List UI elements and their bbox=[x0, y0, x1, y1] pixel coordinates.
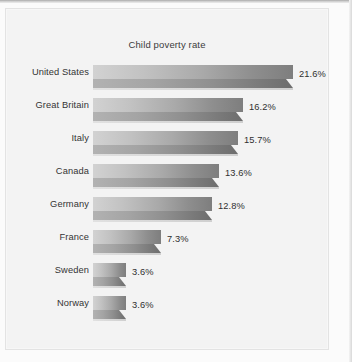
bar-body bbox=[93, 263, 126, 289]
bar-shadow bbox=[93, 286, 126, 288]
bar bbox=[93, 230, 161, 256]
bar-row: France7.3% bbox=[6, 228, 328, 261]
bar-top-face bbox=[93, 263, 126, 277]
bar-shadow bbox=[93, 121, 243, 123]
bar-body bbox=[93, 164, 219, 190]
bar-top-face bbox=[93, 296, 126, 310]
bar-shadow bbox=[93, 253, 161, 255]
bar-top-face bbox=[93, 230, 161, 244]
bar-value-label: 15.7% bbox=[244, 135, 271, 145]
bar-category-label: Norway bbox=[6, 298, 89, 308]
bar-category-label: Canada bbox=[6, 166, 89, 176]
bar-top-face bbox=[93, 131, 238, 145]
bar-top-face bbox=[93, 65, 293, 79]
bar-row: Sweden3.6% bbox=[6, 261, 328, 294]
bar-category-label: United States bbox=[6, 67, 89, 77]
bar-value-label: 13.6% bbox=[225, 168, 252, 178]
bar-shadow bbox=[93, 319, 126, 321]
bar-value-label: 21.6% bbox=[299, 69, 326, 79]
bar-shadow bbox=[93, 88, 293, 90]
bar-body bbox=[93, 230, 161, 256]
bar-row: Canada13.6% bbox=[6, 162, 328, 195]
bar-top-face bbox=[93, 164, 219, 178]
bar bbox=[93, 263, 126, 289]
bar-row: Germany12.8% bbox=[6, 195, 328, 228]
bar-body bbox=[93, 296, 126, 322]
scan-top-edge bbox=[0, 0, 352, 3]
bar-top-face bbox=[93, 197, 212, 211]
bar-front-face bbox=[93, 244, 161, 253]
bar-body bbox=[93, 98, 243, 124]
bar-body bbox=[93, 131, 238, 157]
bar bbox=[93, 296, 126, 322]
bar-row: United States21.6% bbox=[6, 63, 328, 96]
bar-category-label: Italy bbox=[6, 133, 89, 143]
bar-body bbox=[93, 197, 212, 223]
bar-value-label: 7.3% bbox=[167, 234, 189, 244]
bar-category-label: Germany bbox=[6, 199, 89, 209]
bar-row: Norway3.6% bbox=[6, 294, 328, 327]
chart-panel: Child poverty rate United States21.6%Gre… bbox=[5, 8, 329, 350]
bar-category-label: Great Britain bbox=[6, 100, 89, 110]
bar-value-label: 3.6% bbox=[132, 267, 154, 277]
bar-value-label: 16.2% bbox=[249, 102, 276, 112]
chart-title: Child poverty rate bbox=[6, 39, 328, 50]
bar-shadow bbox=[93, 154, 238, 156]
bar-front-face bbox=[93, 211, 212, 220]
bar-front-face bbox=[93, 178, 219, 187]
bar-row: Italy15.7% bbox=[6, 129, 328, 162]
bar bbox=[93, 65, 293, 91]
bar-front-face bbox=[93, 112, 243, 121]
bar-front-face bbox=[93, 79, 293, 88]
bar-shadow bbox=[93, 187, 219, 189]
bar bbox=[93, 164, 219, 190]
bar bbox=[93, 197, 212, 223]
bar-front-face bbox=[93, 145, 238, 154]
scanned-page: Child poverty rate United States21.6%Gre… bbox=[0, 0, 352, 362]
bar bbox=[93, 131, 238, 157]
bar-category-label: Sweden bbox=[6, 265, 89, 275]
bar-body bbox=[93, 65, 293, 91]
bar-category-label: France bbox=[6, 232, 89, 242]
bar-value-label: 12.8% bbox=[218, 201, 245, 211]
bar bbox=[93, 98, 243, 124]
bar-top-face bbox=[93, 98, 243, 112]
bar-chart-plot-area: United States21.6%Great Britain16.2%Ital… bbox=[6, 63, 328, 327]
bar-row: Great Britain16.2% bbox=[6, 96, 328, 129]
bar-shadow bbox=[93, 220, 212, 222]
bar-value-label: 3.6% bbox=[132, 300, 154, 310]
